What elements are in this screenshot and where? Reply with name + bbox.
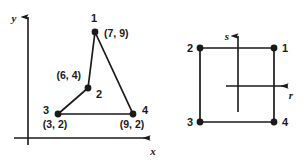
physical-coordinate-panel: y x 1 2 3 4 (7, 9) (6, 4) (3, 2) (9, 2): [10, 12, 157, 157]
natural-node-1-number: 1: [282, 42, 288, 54]
r-axis-label: r: [289, 89, 294, 101]
physical-node-1-number: 1: [91, 12, 97, 24]
figure-container: y x 1 2 3 4 (7, 9) (6, 4) (3, 2) (9, 2): [0, 0, 307, 162]
physical-node-2-number: 2: [96, 88, 102, 100]
physical-node-4-number: 4: [142, 104, 149, 116]
physical-node-2-coordinate: (6, 4): [56, 69, 81, 81]
x-axis-label: x: [149, 145, 156, 157]
natural-element-outline: [200, 48, 274, 122]
natural-node-3-dot: [197, 119, 204, 126]
y-axis-label: y: [10, 12, 17, 24]
physical-node-1-dot: [92, 29, 99, 36]
physical-node-4-coordinate: (9, 2): [120, 118, 145, 130]
natural-node-3-number: 3: [187, 116, 193, 128]
physical-node-4-dot: [130, 111, 137, 118]
natural-node-4-dot: [271, 119, 278, 126]
natural-node-1-dot: [271, 45, 278, 52]
physical-node-3-number: 3: [43, 104, 49, 116]
element-mapping-figure: y x 1 2 3 4 (7, 9) (6, 4) (3, 2) (9, 2): [0, 0, 307, 162]
natural-node-2-dot: [197, 45, 204, 52]
natural-node-2-number: 2: [187, 42, 193, 54]
physical-node-3-coordinate: (3, 2): [43, 118, 68, 130]
s-axis-label: s: [224, 30, 229, 42]
natural-coordinate-panel: s r 1 2 3 4: [187, 30, 294, 128]
natural-node-4-number: 4: [282, 116, 289, 128]
physical-node-3-dot: [55, 111, 62, 118]
physical-node-2-dot: [85, 85, 92, 92]
physical-node-1-coordinate: (7, 9): [104, 27, 129, 39]
